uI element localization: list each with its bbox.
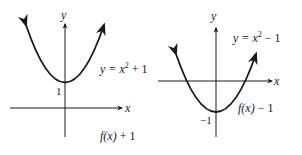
left-graph: y x 1 y = x2 + 1 f(x) + 1 <box>10 8 148 143</box>
left-equation: y = x2 + 1 <box>99 61 148 76</box>
right-y-axis-label: y <box>210 9 217 23</box>
left-x-axis-label: x <box>124 101 131 115</box>
right-vertex-label: −1 <box>200 114 212 126</box>
right-caption: f(x) − 1 <box>238 101 273 115</box>
vertical-shift-diagram: y x 1 y = x2 + 1 f(x) + 1 y x −1 y = x2 … <box>0 0 302 155</box>
right-x-axis-label: x <box>273 74 280 88</box>
left-caption: f(x) + 1 <box>100 129 135 143</box>
left-vertex-label: 1 <box>56 85 62 97</box>
right-equation: y = x2 − 1 <box>232 30 281 45</box>
left-y-axis-label: y <box>60 8 67 22</box>
right-graph: y x −1 y = x2 − 1 f(x) − 1 <box>158 9 281 137</box>
